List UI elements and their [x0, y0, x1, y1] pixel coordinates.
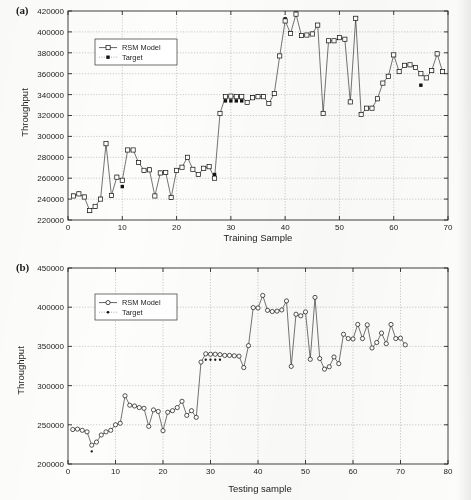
svg-text:200000: 200000 [37, 460, 64, 469]
panel-b-plot: 2000002500003000003500004000004500000102… [0, 250, 471, 500]
svg-text:Target: Target [122, 308, 143, 317]
svg-text:400000: 400000 [37, 303, 64, 312]
svg-text:0: 0 [66, 223, 71, 232]
svg-text:340000: 340000 [37, 91, 64, 100]
svg-text:240000: 240000 [37, 195, 64, 204]
svg-text:400000: 400000 [37, 28, 64, 37]
svg-text:0: 0 [66, 467, 71, 476]
svg-text:60: 60 [349, 467, 358, 476]
svg-text:40: 40 [281, 223, 290, 232]
svg-text:280000: 280000 [37, 153, 64, 162]
svg-text:10: 10 [118, 223, 127, 232]
svg-text:300000: 300000 [37, 132, 64, 141]
svg-text:420000: 420000 [37, 7, 64, 16]
svg-text:30: 30 [226, 223, 235, 232]
svg-text:220000: 220000 [37, 216, 64, 225]
svg-text:300000: 300000 [37, 382, 64, 391]
svg-text:80: 80 [444, 467, 453, 476]
svg-text:70: 70 [444, 223, 453, 232]
svg-text:RSM Model: RSM Model [122, 298, 161, 307]
svg-text:260000: 260000 [37, 174, 64, 183]
panel-b-legend: RSM ModelTarget [95, 294, 177, 320]
svg-text:60: 60 [389, 223, 398, 232]
svg-text:50: 50 [335, 223, 344, 232]
svg-text:40: 40 [254, 467, 263, 476]
chart-panel-b: (b) Throughput Testing sample 2000002500… [0, 250, 471, 500]
svg-text:70: 70 [396, 467, 405, 476]
svg-text:20: 20 [172, 223, 181, 232]
svg-text:Target: Target [122, 53, 143, 62]
panel-a-legend: RSM ModelTarget [95, 39, 177, 65]
svg-text:10: 10 [111, 467, 120, 476]
svg-text:20: 20 [159, 467, 168, 476]
svg-text:30: 30 [206, 467, 215, 476]
chart-panel-a: (a) Throughput Training Sample 220000240… [0, 0, 471, 250]
svg-text:380000: 380000 [37, 49, 64, 58]
svg-text:350000: 350000 [37, 342, 64, 351]
svg-text:320000: 320000 [37, 111, 64, 120]
svg-text:360000: 360000 [37, 70, 64, 79]
svg-text:450000: 450000 [37, 264, 64, 273]
panel-a-plot: 2200002400002600002800003000003200003400… [0, 0, 471, 250]
svg-text:RSM Model: RSM Model [122, 43, 161, 52]
svg-text:50: 50 [301, 467, 310, 476]
svg-text:250000: 250000 [37, 421, 64, 430]
